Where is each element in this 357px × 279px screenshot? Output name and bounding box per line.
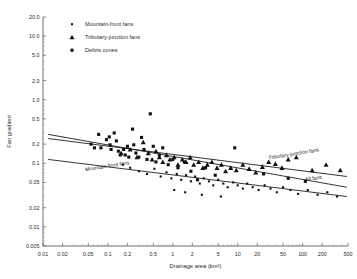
data-point-square <box>142 148 145 151</box>
x-tick-label: 10 <box>235 251 241 257</box>
y-tick-label: 5.0 <box>32 52 40 58</box>
legend-label: Debris cones <box>85 47 118 53</box>
legend-label: Mountain-front fans <box>85 21 133 27</box>
legend-label: Tributary-junction fans <box>85 34 140 40</box>
data-point-small-square <box>269 188 271 190</box>
legend-marker-small-square <box>71 23 73 25</box>
data-point-small-square <box>297 193 299 195</box>
scatter-plot: 0.010.020.050.10.20.51251020501002005002… <box>0 0 357 279</box>
y-tick-label: 10.0 <box>29 33 40 39</box>
data-point-small-square <box>252 186 254 188</box>
data-point-small-square <box>307 189 309 191</box>
data-point-square <box>127 156 130 159</box>
data-point-square <box>97 133 100 136</box>
data-point-triangle <box>223 169 228 174</box>
x-tick-label: 500 <box>344 251 353 257</box>
data-point-triangle <box>160 159 165 164</box>
data-point-small-square <box>232 181 234 183</box>
data-point-small-square <box>190 180 192 182</box>
data-point-small-square <box>160 175 162 177</box>
x-axis-title: Drainage area (km²) <box>170 263 222 269</box>
data-point-small-square <box>289 189 291 191</box>
data-point-triangle <box>150 157 155 162</box>
data-point-triangle <box>209 159 214 164</box>
y-tick-label: 0.5 <box>32 116 40 122</box>
y-tick-label: 2.0 <box>32 78 40 84</box>
y-tick-label: 0.005 <box>26 243 40 249</box>
data-point-triangle <box>175 162 180 167</box>
data-point-square <box>124 153 127 156</box>
data-point-small-square <box>282 186 284 188</box>
y-tick-label: 0.2 <box>32 141 40 147</box>
x-tick-label: 0.02 <box>57 251 68 257</box>
data-point-triangle <box>273 161 278 166</box>
data-point-square <box>161 146 164 149</box>
y-tick-label: 0.02 <box>29 205 40 211</box>
data-point-small-square <box>242 188 244 190</box>
data-point-triangle <box>279 165 284 170</box>
data-point-square <box>233 146 236 149</box>
data-point-small-square <box>217 179 219 181</box>
data-point-small-square <box>199 183 201 185</box>
annotation-label: Tributary-junction fans <box>268 146 320 160</box>
data-point-small-square <box>212 184 214 186</box>
y-axis-title: Fan gradient <box>6 115 12 148</box>
data-point-triangle <box>260 164 265 169</box>
x-tick-label: 0.05 <box>83 251 94 257</box>
annotation-label: All fans <box>305 174 323 183</box>
x-tick-label: 0.2 <box>124 251 132 257</box>
data-point-small-square <box>237 184 239 186</box>
data-point-small-square <box>185 174 187 176</box>
data-point-square <box>145 158 148 161</box>
data-point-small-square <box>208 180 210 182</box>
figure-container: 0.010.020.050.10.20.51251020501002005002… <box>0 0 357 279</box>
data-point-square <box>154 160 157 163</box>
x-tick-label: 1 <box>171 251 174 257</box>
data-point-square <box>140 136 143 139</box>
legend-marker-square <box>70 49 73 52</box>
data-point-square <box>99 146 102 149</box>
data-point-square <box>108 135 111 138</box>
y-tick-label: 1.0 <box>32 97 40 103</box>
x-tick-label: 0.5 <box>150 251 158 257</box>
y-tick-label: 0.01 <box>29 224 40 230</box>
data-point-triangle <box>191 162 196 167</box>
x-tick-label: 2 <box>191 251 194 257</box>
data-point-square <box>126 145 129 148</box>
data-point-small-square <box>170 177 172 179</box>
legend-marker-triangle <box>70 35 75 40</box>
data-point-small-square <box>222 183 224 185</box>
data-point-small-square <box>184 191 186 193</box>
data-point-small-square <box>153 168 155 170</box>
data-point-small-square <box>201 194 203 196</box>
data-point-small-square <box>317 194 319 196</box>
x-tick-label: 100 <box>298 251 307 257</box>
x-tick-label: 0.1 <box>104 251 112 257</box>
data-point-small-square <box>203 177 205 179</box>
data-point-small-square <box>176 173 178 175</box>
x-tick-label: 50 <box>280 251 286 257</box>
data-point-triangle <box>324 162 329 167</box>
data-point-small-square <box>246 183 248 185</box>
data-point-small-square <box>276 191 278 193</box>
data-point-square <box>109 143 112 146</box>
data-point-small-square <box>258 189 260 191</box>
data-point-square <box>115 139 118 142</box>
annotation-label: Mountain-front fans <box>85 159 130 172</box>
data-point-square <box>134 151 137 154</box>
data-point-square <box>90 143 93 146</box>
x-tick-label: 200 <box>318 251 327 257</box>
data-point-square <box>262 172 265 175</box>
data-point-small-square <box>173 189 175 191</box>
data-point-square <box>132 143 135 146</box>
data-point-small-square <box>165 171 167 173</box>
data-point-square <box>93 146 96 149</box>
data-point-square <box>287 177 290 180</box>
data-point-triangle <box>153 149 158 154</box>
data-point-small-square <box>326 191 328 193</box>
data-point-triangle <box>338 168 343 173</box>
data-point-triangle <box>310 168 315 173</box>
data-point-square <box>167 163 170 166</box>
data-point-square <box>149 112 152 115</box>
y-tick-label: 0.05 <box>29 179 40 185</box>
